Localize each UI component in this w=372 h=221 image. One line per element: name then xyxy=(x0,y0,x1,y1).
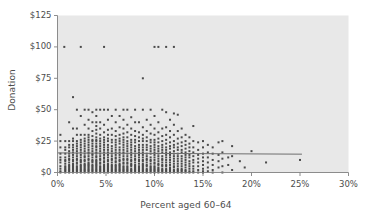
y-tick-label: $100 xyxy=(30,41,52,51)
y-tick-label: $125 xyxy=(30,10,52,20)
x-tick-label: 5% xyxy=(86,179,126,189)
y-tick-label: $50 xyxy=(35,104,51,114)
y-tick-label: $0 xyxy=(41,167,52,177)
x-axis-title: Percent aged 60–64 xyxy=(0,200,372,210)
x-tick-label: 0% xyxy=(38,179,78,189)
x-tick-label: 30% xyxy=(329,179,369,189)
x-tick-label: 10% xyxy=(135,179,175,189)
x-tick-label: 20% xyxy=(232,179,272,189)
x-tick-label: 15% xyxy=(183,179,223,189)
x-tick-label: 25% xyxy=(280,179,320,189)
y-axis-title: Donation xyxy=(7,55,17,125)
y-tick-label: $75 xyxy=(35,73,51,83)
scatter-plot-figure: $0$25$50$75$100$125 0%5%10%15%20%25%30% … xyxy=(0,0,372,221)
y-tick-label: $25 xyxy=(35,136,51,146)
